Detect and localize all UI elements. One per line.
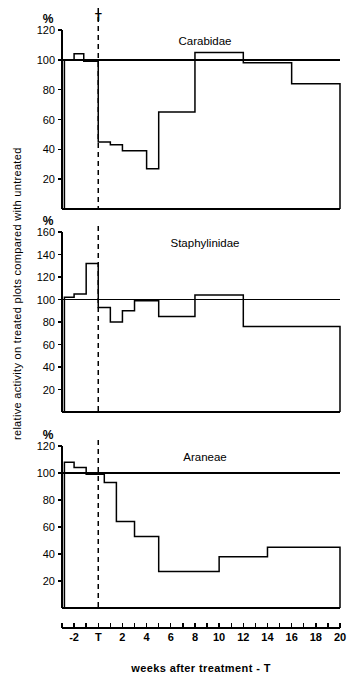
y-tick-label: 140 bbox=[37, 249, 55, 261]
chart-panels: %20406080100120CarabidaeT%20406080100120… bbox=[37, 8, 340, 608]
y-tick-label: 60 bbox=[43, 521, 55, 533]
x-tick-label: 10 bbox=[213, 631, 225, 643]
step-series-line bbox=[64, 52, 340, 209]
y-tick-label: 160 bbox=[37, 226, 55, 238]
y-tick-label: 20 bbox=[43, 384, 55, 396]
x-tick-label: 16 bbox=[286, 631, 298, 643]
x-tick-label: 18 bbox=[310, 631, 322, 643]
chart-panel-staphylinidae: %20406080100120140160Staphylinidae bbox=[37, 214, 340, 412]
chart-panel-araneae: %20406080100120Araneae bbox=[37, 428, 340, 608]
x-tick-label: T bbox=[95, 631, 102, 643]
step-series-line bbox=[64, 264, 340, 413]
y-tick-label: 40 bbox=[43, 548, 55, 560]
x-tick-label: 6 bbox=[168, 631, 174, 643]
figure-root: relative activity on treated plots compa… bbox=[0, 0, 358, 685]
y-tick-label: 120 bbox=[37, 24, 55, 36]
y-tick-label: 20 bbox=[43, 173, 55, 185]
x-tick-label: 4 bbox=[144, 631, 151, 643]
x-tick-label: 8 bbox=[192, 631, 198, 643]
y-tick-label: 80 bbox=[43, 494, 55, 506]
y-tick-label: 80 bbox=[43, 316, 55, 328]
y-tick-label: 20 bbox=[43, 575, 55, 587]
x-tick-label: -2 bbox=[69, 631, 79, 643]
y-tick-label: 40 bbox=[43, 143, 55, 155]
y-tick-label: 60 bbox=[43, 114, 55, 126]
treatment-marker-label: T bbox=[95, 11, 102, 23]
y-tick-label: 120 bbox=[37, 271, 55, 283]
y-axis-title: relative activity on treated plots compa… bbox=[11, 147, 23, 440]
panel-title: Carabidae bbox=[178, 35, 231, 47]
step-series-line bbox=[64, 462, 340, 608]
y-tick-label: 100 bbox=[37, 467, 55, 479]
x-tick-label: 14 bbox=[261, 631, 274, 643]
y-tick-label: 40 bbox=[43, 361, 55, 373]
step-chart-figure: relative activity on treated plots compa… bbox=[0, 0, 358, 685]
y-tick-label: 120 bbox=[37, 440, 55, 452]
x-tick-label: 12 bbox=[237, 631, 249, 643]
y-tick-label: 100 bbox=[37, 54, 55, 66]
panel-title: Staphylinidae bbox=[170, 237, 239, 249]
x-tick-label: 20 bbox=[334, 631, 346, 643]
x-axis: -2T2468101214161820 bbox=[62, 623, 346, 643]
y-tick-label: 80 bbox=[43, 84, 55, 96]
chart-panel-carabidae: %20406080100120CarabidaeT bbox=[37, 8, 340, 209]
y-axis-title-group: relative activity on treated plots compa… bbox=[11, 147, 23, 440]
x-axis-title: weeks after treatment - T bbox=[130, 662, 271, 674]
y-tick-label: 60 bbox=[43, 339, 55, 351]
x-tick-label: 2 bbox=[119, 631, 125, 643]
panel-title: Araneae bbox=[183, 451, 226, 463]
y-tick-label: 100 bbox=[37, 294, 55, 306]
